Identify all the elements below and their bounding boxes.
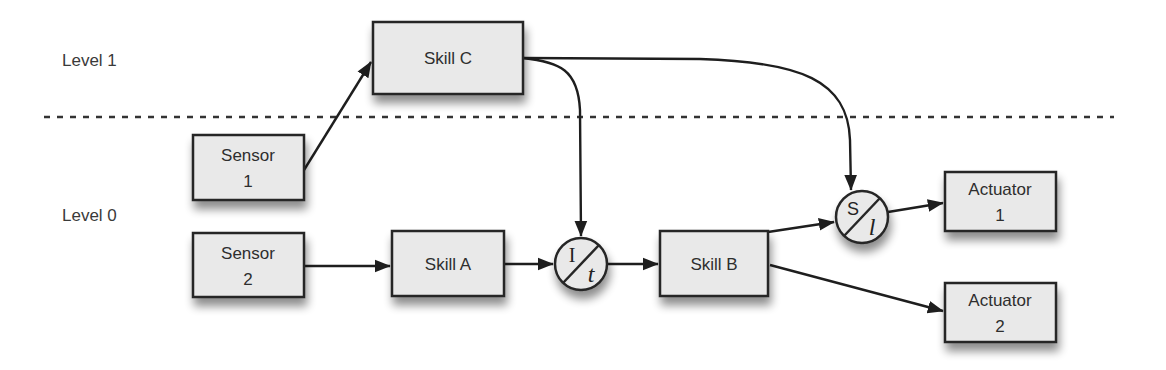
- subsumption-diagram: Level 1 Level 0 Skill C Sensor 1 Sensor …: [0, 0, 1166, 370]
- suppressor-top-symbol: S: [847, 199, 859, 219]
- inhibitor-top-symbol: I: [569, 244, 576, 266]
- actuator-1-label-line1: Actuator: [968, 180, 1032, 199]
- level-1-label: Level 1: [62, 51, 117, 70]
- skill-b-label: Skill B: [690, 255, 737, 274]
- sensor-1-label-line1: Sensor: [221, 146, 275, 165]
- sensor-2-label-line1: Sensor: [221, 244, 275, 263]
- sensor-2-label-line2: 2: [243, 270, 252, 289]
- edge-suppressor-actuator1: [888, 203, 943, 212]
- actuator-2-label-line2: 2: [995, 317, 1004, 336]
- edge-skillb-suppressor: [768, 222, 834, 232]
- suppressor-bottom-symbol: l: [869, 214, 876, 240]
- level-0-label: Level 0: [62, 206, 117, 225]
- skill-c-label: Skill C: [424, 49, 472, 68]
- edge-skillc-inhibitor: [523, 58, 581, 236]
- actuator-2-label-line1: Actuator: [968, 291, 1032, 310]
- sensor-1-label-line2: 1: [243, 172, 252, 191]
- skill-a-label: Skill A: [425, 255, 472, 274]
- edge-skillb-actuator2: [770, 265, 943, 311]
- actuator-1-label-line2: 1: [995, 206, 1004, 225]
- diagram-canvas: Level 1 Level 0 Skill C Sensor 1 Sensor …: [0, 0, 1166, 370]
